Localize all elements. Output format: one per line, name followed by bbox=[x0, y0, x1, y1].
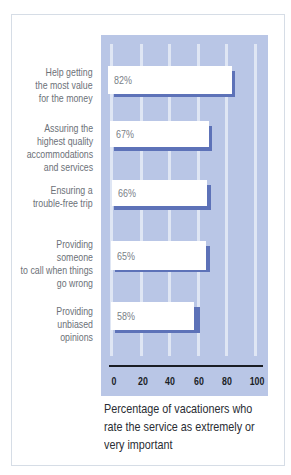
bar-value-label: 82% bbox=[114, 74, 132, 86]
gridline bbox=[254, 44, 257, 356]
category-label: Help getting the most value for the mone… bbox=[36, 66, 93, 105]
x-tick-label: 100 bbox=[250, 375, 265, 387]
category-label: Assuring the highest quality accommodati… bbox=[26, 122, 93, 174]
category-label: Providing someone to call when things go… bbox=[19, 238, 93, 290]
x-tick-label: 80 bbox=[222, 375, 232, 387]
chart-plot-area: 82% 67% 66% 65% 58% 0 20 40 60 80 100 bbox=[101, 35, 268, 396]
x-tick-label: 40 bbox=[165, 375, 175, 387]
bar-value-label: 67% bbox=[116, 128, 134, 140]
bar-value-label: 66% bbox=[118, 187, 136, 199]
bar-someone-to-call: 65% bbox=[111, 241, 206, 270]
bar-value-label: 65% bbox=[117, 250, 135, 262]
x-axis-line bbox=[109, 365, 263, 367]
bar-trouble-free-trip: 66% bbox=[112, 180, 207, 206]
bar-value-label: 58% bbox=[117, 310, 135, 322]
x-tick-label: 0 bbox=[112, 375, 117, 387]
x-tick-label: 20 bbox=[138, 375, 148, 387]
category-label: Ensuring a trouble-free trip bbox=[33, 184, 93, 210]
bar-most-value: 82% bbox=[108, 66, 232, 94]
x-axis-caption: Percentage of vacationers who rate the s… bbox=[104, 400, 291, 454]
category-label: Providing unbiased opinions bbox=[19, 305, 93, 344]
x-tick-label: 60 bbox=[194, 375, 204, 387]
bar-unbiased-opinions: 58% bbox=[111, 302, 194, 330]
bar-quality-accommodations: 67% bbox=[110, 121, 209, 147]
